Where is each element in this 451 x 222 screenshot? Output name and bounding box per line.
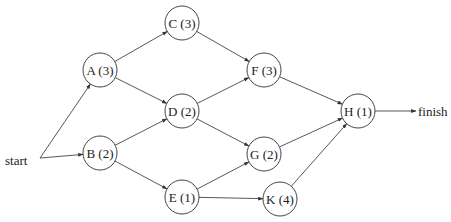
node-label: G (2) <box>250 147 278 162</box>
node-label: E (1) <box>169 190 195 205</box>
node-e: E (1) <box>165 180 199 214</box>
nodes-layer: A (3)B (2)C (3)D (2)E (1)F (3)G (2)K (4)… <box>83 6 375 216</box>
node-c: C (3) <box>165 6 199 40</box>
edge-b-to-d <box>115 119 167 146</box>
node-g: G (2) <box>247 137 281 171</box>
finish-label: finish <box>418 104 448 119</box>
edge-d-to-g <box>197 119 249 146</box>
node-h: H (1) <box>341 94 375 128</box>
node-label: K (4) <box>266 192 294 207</box>
node-f: F (3) <box>247 53 281 87</box>
edge-k-to-h <box>291 124 346 187</box>
edge-d-to-f <box>197 78 249 104</box>
node-label: B (2) <box>86 146 113 161</box>
edge-b-to-e <box>115 161 167 189</box>
activity-network-diagram: A (3)B (2)C (3)D (2)E (1)F (3)G (2)K (4)… <box>0 0 451 222</box>
node-a: A (3) <box>83 53 117 87</box>
node-label: F (3) <box>251 63 277 78</box>
node-label: C (3) <box>168 16 195 31</box>
node-d: D (2) <box>165 94 199 128</box>
node-k: K (4) <box>263 182 297 216</box>
edge-e-to-k <box>199 197 263 198</box>
edge-start-to-b <box>40 154 83 158</box>
edge-a-to-d <box>115 78 167 104</box>
edge-c-to-f <box>197 31 250 61</box>
start-label: start <box>5 153 28 168</box>
node-label: H (1) <box>344 104 372 119</box>
edge-g-to-h <box>279 118 342 147</box>
node-label: A (3) <box>86 63 113 78</box>
edge-e-to-g <box>197 162 249 189</box>
edge-start-to-a <box>40 84 90 158</box>
node-label: D (2) <box>168 104 196 119</box>
node-b: B (2) <box>83 136 117 170</box>
edge-a-to-c <box>115 31 168 61</box>
edge-f-to-h <box>280 77 343 104</box>
